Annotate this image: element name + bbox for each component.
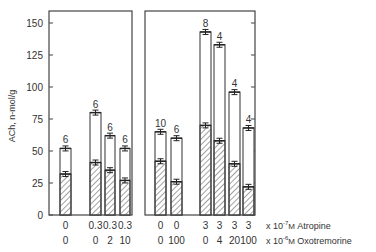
hatched-bar	[60, 174, 71, 215]
oxotremorine-dose-label: 10	[119, 235, 131, 246]
atropine-dose-label: 3	[232, 220, 238, 231]
oxotremorine-row-label: x 10-6M Oxotremorine	[266, 235, 352, 246]
bar-group: 6	[171, 124, 182, 215]
hatched-bar	[200, 125, 211, 215]
bar-group: 4	[229, 78, 240, 215]
atropine-dose-label: 3	[217, 220, 223, 231]
bar-group: 6	[120, 134, 130, 215]
bar-chart: 0255075100125150ACh, n-mol/g 66661068444…	[0, 0, 376, 252]
bar-group: 6	[90, 99, 101, 215]
y-tick-label: 75	[32, 114, 44, 125]
n-label: 4	[232, 78, 238, 89]
n-label: 6	[174, 124, 180, 135]
hatched-bar	[90, 163, 101, 215]
bar-group: 8	[200, 18, 211, 215]
atropine-dose-label: 0.3	[118, 220, 132, 231]
n-label: 6	[63, 134, 69, 145]
oxotremorine-dose-label: 0	[93, 235, 99, 246]
atropine-dose-label: 0	[63, 220, 69, 231]
hatched-bar	[120, 180, 130, 215]
bar-group: 4	[243, 114, 254, 215]
bar-group: 4	[214, 31, 225, 215]
hatched-bar	[214, 141, 225, 215]
oxotremorine-dose-label: 0	[158, 235, 164, 246]
y-tick-label: 100	[26, 82, 43, 93]
hatched-bar	[155, 161, 166, 215]
hatched-bar	[243, 187, 254, 215]
oxotremorine-dose-label: 0	[63, 235, 69, 246]
y-tick-label: 0	[37, 210, 43, 221]
atropine-dose-label: 0	[174, 220, 180, 231]
oxotremorine-dose-label: 100	[168, 235, 185, 246]
y-tick-label: 125	[26, 50, 43, 61]
y-axis-label: ACh, n-mol/g	[7, 90, 17, 143]
y-tick-label: 25	[32, 178, 44, 189]
atropine-dose-label: 0	[158, 220, 164, 231]
n-label: 6	[122, 134, 128, 145]
atropine-dose-label: 3	[203, 220, 209, 231]
hatched-bar	[105, 170, 115, 215]
atropine-dose-label: 0.3	[103, 220, 117, 231]
hatched-bar	[171, 182, 182, 215]
bar-group: 6	[60, 134, 71, 215]
n-label: 6	[107, 122, 113, 133]
n-label: 4	[217, 31, 223, 42]
n-label: 8	[203, 18, 209, 29]
y-tick-label: 150	[26, 18, 43, 29]
n-label: 6	[93, 99, 99, 110]
n-label: 4	[246, 114, 252, 125]
atropine-dose-label: 0.3	[89, 220, 103, 231]
bar-group: 6	[105, 122, 115, 215]
bar-group: 10	[155, 118, 167, 215]
atropine-dose-label: 3	[246, 220, 252, 231]
oxotremorine-dose-label: 2	[107, 235, 113, 246]
atropine-row-label: x 10-7M Atropine	[266, 220, 331, 231]
hatched-bar	[229, 164, 240, 215]
oxotremorine-dose-label: 0	[203, 235, 209, 246]
x-labels: 000.300.320.31000010030343203100x 10-7M …	[63, 220, 352, 246]
oxotremorine-dose-label: 4	[217, 235, 223, 246]
n-label: 10	[155, 118, 167, 129]
oxotremorine-dose-label: 100	[240, 235, 257, 246]
bars: 66661068444	[60, 18, 254, 215]
oxotremorine-dose-label: 20	[229, 235, 241, 246]
y-tick-label: 50	[32, 146, 44, 157]
